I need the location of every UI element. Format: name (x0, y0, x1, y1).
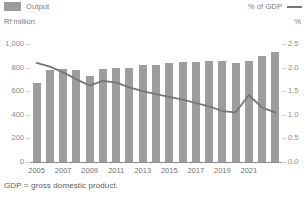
chart-container: Output % of GDP Rf million % 1,000800600… (0, 0, 306, 197)
right-axis-tick-label: 0.0 (288, 158, 306, 166)
left-axis-tick-label: 400 (2, 111, 24, 119)
x-axis-baseline (30, 162, 282, 163)
x-axis-label-2013: 2013 (134, 166, 151, 175)
legend-item-output: Output (4, 2, 49, 11)
legend-item-percent-of-gdp: % of GDP (248, 2, 302, 11)
x-axis-label-2019: 2019 (214, 166, 231, 175)
x-axis-label-2021: 2021 (240, 166, 257, 175)
left-axis-unit: Rf million (4, 17, 35, 26)
left-axis-tick-label: 200 (2, 134, 24, 142)
left-axis-tick-label: 0 (2, 158, 24, 166)
left-axis-tick-mark (26, 68, 29, 69)
x-axis-label-2011: 2011 (108, 166, 124, 175)
line-series-percent-of-gdp (30, 44, 282, 162)
right-axis-tick-label: 1.0 (288, 111, 306, 119)
right-axis-tick-label: 0.5 (288, 134, 306, 142)
x-axis-label-2017: 2017 (187, 166, 204, 175)
legend-label-output: Output (26, 2, 49, 11)
x-axis-labels: 200520072009201120132015201720192021 (30, 166, 282, 178)
right-axis-tick-mark (283, 44, 286, 45)
right-axis-tick-label: 2.5 (288, 40, 306, 48)
x-axis-label-2009: 2009 (81, 166, 98, 175)
left-axis-tick-label: 1,000 (2, 40, 24, 48)
right-axis-tick-mark (283, 115, 286, 116)
right-axis-tick-mark (283, 91, 286, 92)
right-axis-tick-label: 2.0 (288, 64, 306, 72)
left-axis-tick-mark (26, 162, 29, 163)
x-axis-label-2005: 2005 (28, 166, 45, 175)
plot-area (30, 44, 282, 162)
chart-footnote: GDP = gross domestic product. (4, 181, 118, 190)
right-axis-tick-mark (283, 162, 286, 163)
chart-legend: Output % of GDP (0, 0, 306, 16)
legend-label-percent-of-gdp: % of GDP (248, 2, 282, 11)
line-swatch-icon (287, 6, 302, 8)
right-axis-tick-mark (283, 138, 286, 139)
right-axis-tick-label: 1.5 (288, 87, 306, 95)
right-axis-tick-mark (283, 68, 286, 69)
right-axis-unit: % (294, 17, 301, 26)
bar-swatch-icon (4, 2, 21, 11)
left-axis-tick-mark (26, 138, 29, 139)
line-path-percent-of-gdp (37, 63, 276, 113)
left-axis-tick-mark (26, 115, 29, 116)
left-axis-tick-mark (26, 44, 29, 45)
x-axis-label-2007: 2007 (55, 166, 72, 175)
left-axis-tick-mark (26, 91, 29, 92)
left-axis-tick-label: 600 (2, 87, 24, 95)
x-axis-label-2015: 2015 (161, 166, 178, 175)
left-axis-tick-label: 800 (2, 64, 24, 72)
